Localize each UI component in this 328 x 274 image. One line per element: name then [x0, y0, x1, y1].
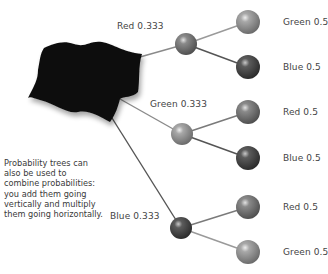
node-blue-under-green	[236, 146, 260, 170]
node-red-under-blue	[236, 195, 260, 219]
label-red-under-green: Red 0.5	[283, 107, 318, 117]
node-green-under-red	[236, 10, 260, 34]
label-blue-under-red: Blue 0.5	[283, 62, 321, 72]
explanation-note: Probability trees can also be used to co…	[4, 158, 104, 219]
node-green-level1	[171, 123, 193, 145]
node-blue-under-red	[236, 55, 260, 79]
label-green-level1: Green 0.333	[150, 99, 207, 109]
label-green-under-blue: Green 0.5	[283, 247, 328, 257]
probability-tree-diagram	[0, 0, 328, 274]
label-red-under-blue: Red 0.5	[283, 202, 318, 212]
node-red-level1	[175, 33, 197, 55]
label-red-level1: Red 0.333	[117, 21, 164, 31]
label-blue-level1: Blue 0.333	[110, 211, 160, 221]
node-blue-level1	[170, 217, 192, 239]
label-blue-under-green: Blue 0.5	[283, 153, 321, 163]
black-bag-icon	[28, 42, 142, 122]
node-green-under-blue	[236, 240, 260, 264]
label-green-under-red: Green 0.5	[283, 17, 328, 27]
node-red-under-green	[236, 100, 260, 124]
